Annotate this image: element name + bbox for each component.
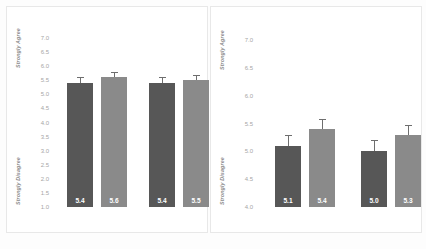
bar: 5.5	[183, 80, 209, 207]
bar-value-label: 5.0	[361, 198, 387, 205]
error-bar	[408, 126, 409, 135]
bar-group-item: 5.0	[361, 40, 387, 207]
error-bar-cap-top	[371, 140, 378, 141]
error-bar-cap-top	[405, 125, 412, 126]
error-bar	[322, 120, 323, 129]
chart-panel-right: Strongly Agree Strongly Disagree 7.06.56…	[210, 6, 422, 233]
bar: 5.1	[275, 146, 301, 207]
error-bar-cap-top	[193, 75, 200, 76]
error-bar-cap-top	[319, 119, 326, 120]
y-tick-label: 3.0	[29, 148, 49, 154]
error-bar	[288, 136, 289, 146]
y-tick-label: 5.5	[233, 121, 253, 127]
error-bar-cap-top	[77, 77, 84, 78]
bar-group-item: 5.3	[395, 40, 421, 207]
bar-value-label: 5.5	[183, 198, 209, 205]
y-tick-label: 5.5	[29, 77, 49, 83]
y-tick-label: 7.0	[29, 35, 49, 41]
error-bar-cap-top	[159, 77, 166, 78]
error-bar	[196, 76, 197, 81]
y-tick-label: 4.5	[29, 105, 49, 111]
bar-value-label: 5.1	[275, 198, 301, 205]
y-tick-label: 2.5	[29, 162, 49, 168]
y-tick-label: 7.0	[233, 37, 253, 43]
bar-value-label: 5.4	[309, 198, 335, 205]
bar-value-label: 5.4	[67, 198, 93, 205]
y-tick-label: 4.0	[233, 204, 253, 210]
y-tick-label: 1.5	[29, 190, 49, 196]
bar: 5.4	[67, 83, 93, 207]
y-tick-label: 6.5	[233, 65, 253, 71]
bar: 5.4	[309, 129, 335, 207]
y-tick-label: 3.5	[29, 134, 49, 140]
error-bar	[162, 78, 163, 83]
plot-area-left: 5.45.65.45.5	[53, 7, 201, 207]
y-tick-label: 1.0	[29, 204, 49, 210]
bar-group-item: 5.4	[149, 38, 175, 207]
y-tick-label: 6.5	[29, 49, 49, 55]
bar: 5.3	[395, 135, 421, 207]
error-bar-cap-top	[285, 135, 292, 136]
bar-group-item: 5.1	[275, 40, 301, 207]
bar-value-label: 5.6	[101, 198, 127, 205]
y-tick-label: 5.0	[29, 91, 49, 97]
error-bar-cap-top	[111, 72, 118, 73]
y-tick-label: 2.0	[29, 176, 49, 182]
bar: 5.0	[361, 151, 387, 207]
bar-group-item: 5.4	[67, 38, 93, 207]
axis-anchor-strongly-agree-left: Strongly Agree	[15, 28, 21, 68]
bar-group-item: 5.6	[101, 38, 127, 207]
figure-container: Strongly Agree Strongly Disagree 7.06.56…	[0, 0, 426, 249]
bar: 5.6	[101, 77, 127, 207]
axis-anchor-strongly-agree-right: Strongly Agree	[219, 30, 225, 70]
axis-anchor-strongly-disagree-right: Strongly Disagree	[219, 157, 225, 205]
y-tick-label: 6.0	[233, 93, 253, 99]
chart-panel-left: Strongly Agree Strongly Disagree 7.06.56…	[6, 6, 208, 233]
y-tick-label: 4.5	[233, 176, 253, 182]
axis-anchor-strongly-disagree-left: Strongly Disagree	[15, 157, 21, 205]
bar-group-item: 5.4	[309, 40, 335, 207]
error-bar	[114, 73, 115, 78]
y-tick-label: 4.0	[29, 120, 49, 126]
error-bar	[80, 78, 81, 83]
error-bar	[374, 141, 375, 151]
plot-area-right: 5.15.45.05.3	[257, 7, 415, 207]
y-tick-label: 6.0	[29, 63, 49, 69]
bar-value-label: 5.3	[395, 198, 421, 205]
bar: 5.4	[149, 83, 175, 207]
y-tick-label: 5.0	[233, 148, 253, 154]
bar-value-label: 5.4	[149, 198, 175, 205]
bar-group-item: 5.5	[183, 38, 209, 207]
